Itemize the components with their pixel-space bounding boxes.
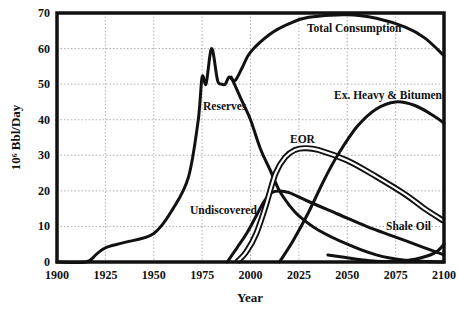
x-tick-label: 1950 bbox=[142, 268, 166, 282]
label-reserves: Reserves bbox=[203, 100, 247, 112]
y-tick-label: 60 bbox=[38, 42, 50, 56]
oil-production-chart: 010203040506070 190019251950197520002025… bbox=[0, 0, 458, 310]
x-tick-label: 1900 bbox=[45, 268, 69, 282]
x-axis-ticks: 190019251950197520002025205020752100 bbox=[45, 268, 456, 282]
x-axis-title: Year bbox=[237, 290, 263, 305]
y-tick-label: 20 bbox=[38, 184, 50, 198]
y-tick-label: 50 bbox=[38, 77, 50, 91]
curve-shale-oil bbox=[328, 244, 444, 261]
x-tick-label: 2000 bbox=[239, 268, 263, 282]
x-tick-label: 1975 bbox=[190, 268, 214, 282]
y-tick-label: 10 bbox=[38, 219, 50, 233]
x-tick-label: 2050 bbox=[335, 268, 359, 282]
label-shale-oil: Shale Oil bbox=[386, 220, 431, 232]
y-tick-label: 0 bbox=[44, 255, 50, 269]
y-tick-label: 30 bbox=[38, 148, 50, 162]
x-tick-label: 1925 bbox=[93, 268, 117, 282]
label-undiscovered: Undiscovered bbox=[190, 204, 257, 216]
x-tick-label: 2100 bbox=[432, 268, 456, 282]
y-axis-ticks: 010203040506070 bbox=[38, 6, 50, 269]
label-eor: EOR bbox=[290, 133, 316, 145]
label-total-consumption: Total Consumption bbox=[307, 22, 402, 35]
x-tick-label: 2025 bbox=[287, 268, 311, 282]
y-tick-label: 40 bbox=[38, 113, 50, 127]
curve-ex-heavy-bitumen bbox=[280, 102, 445, 262]
y-axis-title: 10⁶ Bbl/Day bbox=[8, 104, 23, 170]
x-tick-label: 2075 bbox=[384, 268, 408, 282]
y-tick-label: 70 bbox=[38, 6, 50, 20]
label-ex-heavy-bitumen: Ex. Heavy & Bitumen bbox=[334, 89, 443, 102]
